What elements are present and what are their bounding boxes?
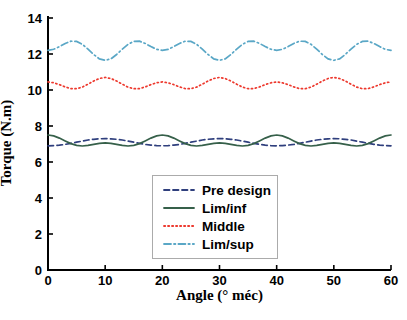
x-tick-label: 50	[327, 273, 341, 288]
y-tick-label: 8	[35, 119, 42, 134]
y-tick-label: 10	[28, 83, 42, 98]
y-tick-label: 14	[28, 11, 43, 26]
legend-line-sample	[163, 185, 195, 195]
plot-area: 010203040506002468101214	[0, 0, 407, 320]
legend-label: Lim/sup	[202, 237, 254, 252]
series-line-middle	[48, 77, 391, 88]
legend-item-lim-sup: Lim/sup	[163, 237, 271, 252]
x-tick-label: 0	[44, 273, 51, 288]
legend-item-pre-design: Pre design	[163, 183, 271, 198]
legend-label: Middle	[202, 219, 245, 234]
x-tick-label: 30	[212, 273, 226, 288]
y-tick-label: 0	[35, 263, 42, 278]
legend-label: Pre design	[202, 183, 271, 198]
series-line-lim-sup	[48, 41, 391, 60]
y-tick-label: 6	[35, 155, 42, 170]
legend: Pre designLim/infMiddleLim/sup	[152, 175, 278, 259]
series-line-lim-inf	[48, 135, 391, 146]
x-tick-label: 20	[155, 273, 169, 288]
x-tick-label: 60	[384, 273, 398, 288]
y-tick-label: 4	[35, 191, 43, 206]
y-tick-label: 12	[28, 47, 42, 62]
legend-line-sample	[163, 239, 195, 249]
legend-line-sample	[163, 221, 195, 231]
legend-item-lim-inf: Lim/inf	[163, 201, 271, 216]
x-axis-label: Angle (° méc)	[48, 287, 391, 304]
legend-line-sample	[163, 203, 195, 213]
x-tick-label: 10	[98, 273, 112, 288]
chart-figure: 010203040506002468101214 Torque (N.m) An…	[0, 0, 407, 320]
legend-item-middle: Middle	[163, 219, 271, 234]
legend-label: Lim/inf	[202, 201, 246, 216]
y-tick-label: 2	[35, 227, 42, 242]
y-axis-label: Torque (N.m)	[0, 43, 16, 243]
x-tick-label: 40	[269, 273, 283, 288]
